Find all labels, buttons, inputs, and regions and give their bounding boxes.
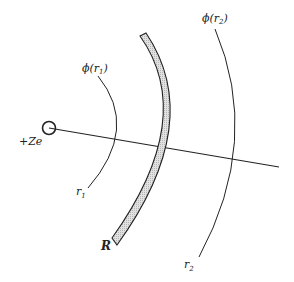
shell-diagram: +Ze ϕ(r1) r1 ϕ(r2) r2 R	[0, 0, 294, 282]
potential-r1-label: ϕ(r1)	[82, 62, 108, 76]
radius-r1-label: r1	[76, 185, 86, 200]
charged-shell-R	[112, 33, 170, 245]
potential-r2-label: ϕ(r2)	[202, 12, 228, 26]
shell-radius-label: R	[100, 239, 111, 253]
nucleus-charge-label: +Ze	[19, 135, 43, 148]
radius-r2-label: r2	[184, 258, 194, 273]
surface-r1-arc	[88, 76, 117, 188]
surface-r2-arc	[199, 29, 235, 257]
